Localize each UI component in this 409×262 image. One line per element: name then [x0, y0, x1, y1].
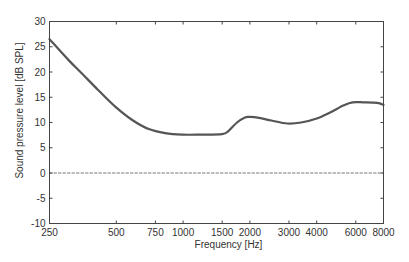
- plot-frame: [50, 22, 384, 224]
- y-axis-ticks: -10-5051015202530: [31, 16, 383, 229]
- x-axis-ticks: 2505007501000150020003000400060008000: [41, 22, 395, 238]
- x-tick-label: 3000: [278, 227, 301, 238]
- y-tick-label: 15: [34, 92, 46, 103]
- series-layer: [50, 39, 384, 173]
- y-tick-label: -10: [31, 218, 46, 229]
- x-tick-label: 6000: [345, 227, 368, 238]
- y-tick-label: 5: [40, 142, 46, 153]
- x-axis-label: Frequency [Hz]: [195, 239, 263, 250]
- chart: 2505007501000150020003000400060008000 -1…: [0, 0, 409, 262]
- y-tick-label: 10: [34, 117, 46, 128]
- data-line: [50, 39, 384, 135]
- x-tick-label: 1000: [172, 227, 195, 238]
- y-axis-label: Sound pressure level [dB SPL]: [14, 42, 25, 178]
- x-tick-label: 750: [147, 227, 164, 238]
- y-tick-label: -5: [37, 193, 46, 204]
- y-tick-label: 0: [40, 168, 46, 179]
- x-tick-label: 2000: [239, 227, 262, 238]
- y-tick-label: 25: [34, 41, 46, 52]
- y-tick-label: 30: [34, 16, 46, 27]
- x-tick-label: 4000: [306, 227, 329, 238]
- y-tick-label: 20: [34, 67, 46, 78]
- x-tick-label: 1500: [211, 227, 234, 238]
- x-tick-label: 8000: [372, 227, 395, 238]
- x-tick-label: 500: [108, 227, 125, 238]
